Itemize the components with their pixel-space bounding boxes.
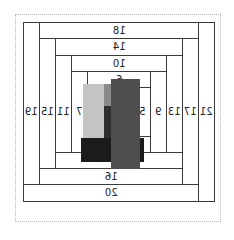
light-gray-patch (83, 84, 104, 139)
strip-label: 7 (76, 107, 82, 117)
strip-label: 16 (105, 172, 118, 182)
strip-label: 13 (168, 107, 181, 117)
strip-label: 10 (113, 59, 126, 69)
strip-label: 21 (200, 107, 213, 117)
strip-label: 18 (113, 26, 126, 36)
dark-gray-patch (111, 79, 140, 169)
strip-10: 10 (71, 55, 167, 72)
strip-18: 18 (39, 22, 199, 39)
strip-14: 14 (55, 38, 183, 56)
strip-19: 19 (23, 22, 40, 202)
strip-label: 20 (105, 188, 118, 198)
strip-label: 9 (155, 107, 161, 117)
strip-21: 21 (198, 22, 215, 202)
strip-label: 11 (57, 107, 70, 117)
strip-label: 19 (25, 107, 38, 117)
strip-label: 15 (41, 107, 54, 117)
strip-15: 15 (39, 38, 56, 185)
strip-16: 16 (39, 168, 183, 185)
strip-label: 5 (139, 107, 145, 117)
strip-17: 17 (182, 38, 199, 185)
strip-9: 9 (150, 71, 167, 153)
strip-label: 17 (184, 107, 197, 117)
strip-label: 14 (113, 42, 126, 52)
strip-20: 20 (23, 184, 199, 202)
